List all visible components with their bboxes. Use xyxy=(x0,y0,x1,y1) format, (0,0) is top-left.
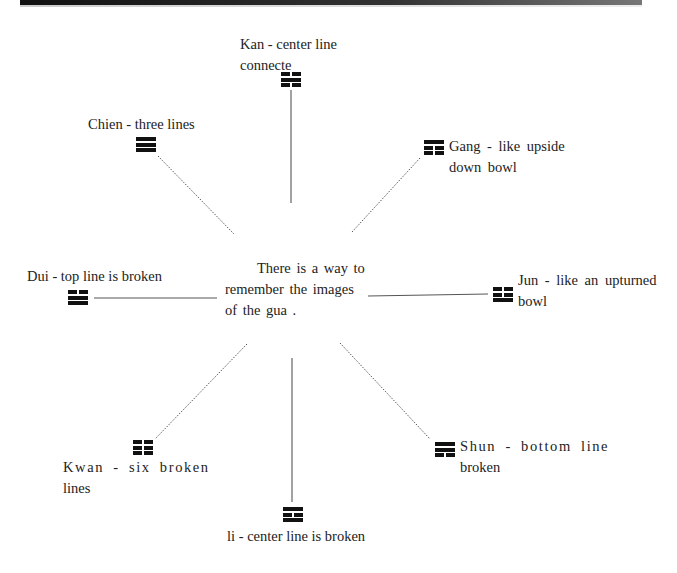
label-kan-line-1: Kan - center line xyxy=(240,34,337,55)
label-dui-line-1: Dui - top line is broken xyxy=(27,266,162,287)
label-li-line-1: li - center line is broken xyxy=(227,526,365,547)
connector-kwan xyxy=(155,344,247,439)
connector-chien xyxy=(158,156,234,234)
connector-gang xyxy=(352,158,420,232)
label-gang-line-1: Gang - like upside xyxy=(449,136,565,157)
trigram-shun-icon xyxy=(435,442,455,457)
center-text-line-1: There is a way to xyxy=(225,258,365,279)
label-kwan-line-2: lines xyxy=(63,478,210,499)
label-jun-line-1: Jun - like an upturned xyxy=(518,270,656,291)
label-jun: Jun - like an upturned bowl xyxy=(518,270,656,312)
trigram-kan-icon xyxy=(281,72,301,87)
label-shun-line-1: Shun - bottom line xyxy=(460,436,609,457)
trigram-gang-icon xyxy=(424,140,444,155)
label-gang: Gang - like upside down bowl xyxy=(449,136,565,178)
trigram-jun-icon xyxy=(493,287,513,302)
center-text: There is a way to remember the images of… xyxy=(225,258,365,321)
label-kan: Kan - center line connecte xyxy=(240,34,337,76)
connector-shun xyxy=(340,343,430,439)
label-chien-line-1: Chien - three lines xyxy=(88,114,195,135)
trigram-dui-icon xyxy=(68,290,88,305)
label-shun: Shun - bottom line broken xyxy=(460,436,609,478)
label-jun-line-2: bowl xyxy=(518,291,656,312)
label-gang-line-2: down bowl xyxy=(449,157,565,178)
center-text-line-2: remember the images xyxy=(225,279,365,300)
label-chien: Chien - three lines xyxy=(88,114,195,135)
trigram-li-icon xyxy=(283,507,303,522)
trigram-chien-icon xyxy=(136,137,156,152)
label-li: li - center line is broken xyxy=(227,526,365,547)
label-kwan-line-1: Kwan - six broken xyxy=(63,457,210,478)
trigram-kwan-icon xyxy=(133,440,153,455)
center-text-line-3: of the gua . xyxy=(225,300,365,321)
label-shun-line-2: broken xyxy=(460,457,609,478)
connector-jun xyxy=(368,294,488,296)
label-kwan: Kwan - six broken lines xyxy=(63,457,210,499)
label-dui: Dui - top line is broken xyxy=(27,266,162,287)
